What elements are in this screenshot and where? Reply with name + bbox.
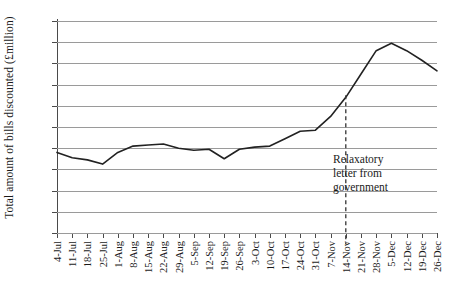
series-line-bills-discounted: [57, 43, 437, 164]
annotation-line-1: Relaxatory: [333, 152, 388, 166]
relaxatory-letter-annotation: Relaxatory letter from government: [333, 152, 388, 194]
annotation-line-3: government: [333, 180, 388, 194]
annotation-line-2: letter from: [333, 166, 388, 180]
chart-figure: Total amount of bills discounted (£milli…: [0, 0, 449, 299]
series-layer: [0, 0, 449, 299]
